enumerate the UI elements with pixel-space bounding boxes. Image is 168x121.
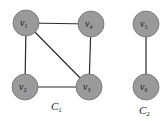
edge-v1-v3 xyxy=(26,23,89,87)
component-label-c2: C2 xyxy=(139,104,150,118)
node-v6: v6 xyxy=(133,74,159,100)
node-v5: v5 xyxy=(133,11,159,37)
node-v3: v3 xyxy=(76,74,102,100)
graph-diagram: v1 v4 v2 v3 v5 v6 C1 C2 xyxy=(0,0,168,121)
component-label-c1: C1 xyxy=(51,100,62,114)
node-v2: v2 xyxy=(12,74,38,100)
node-v1: v1 xyxy=(13,10,39,36)
node-v4: v4 xyxy=(78,11,104,37)
